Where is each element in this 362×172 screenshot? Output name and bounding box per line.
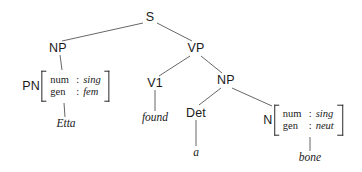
node-np-object: NP: [217, 74, 235, 87]
node-v1: V1: [147, 77, 163, 90]
feature-matrix-pn-brackets: num : sing gen : fem: [41, 71, 109, 102]
feature-separator: :: [306, 120, 316, 133]
edge-vp-v1: [159, 56, 190, 76]
feature-attribute: gen: [283, 120, 306, 133]
edge-s-vp: [157, 23, 192, 41]
terminal-etta: Etta: [56, 118, 75, 130]
syntax-tree-diagram: S NP VP V1 NP Det PN num : sing gen : fe…: [0, 0, 362, 172]
terminal-bone: bone: [299, 152, 321, 164]
feature-separator: :: [73, 73, 83, 86]
feature-matrix-pn: PN num : sing gen : fem: [22, 71, 109, 102]
node-np-subject: NP: [49, 42, 67, 55]
terminal-a: a: [193, 147, 199, 159]
node-det: Det: [186, 107, 206, 120]
edge-pn-etta: [64, 103, 65, 117]
node-vp: VP: [187, 42, 204, 55]
edge-np-pn: [60, 55, 62, 70]
feature-row-gen: gen : neut: [283, 120, 334, 133]
feature-row-gen: gen : fem: [50, 86, 100, 99]
feature-attribute: gen: [50, 86, 73, 99]
feature-value: neut: [316, 120, 334, 133]
feature-matrix-pn-category: PN: [22, 80, 39, 93]
feature-matrix-n: N num : sing gen : neut: [263, 105, 343, 136]
edge-s-np: [62, 23, 143, 41]
feature-separator: :: [73, 86, 83, 99]
feature-matrix-n-brackets: num : sing gen : neut: [274, 105, 343, 136]
terminal-found: found: [142, 112, 168, 124]
feature-attribute: num: [50, 73, 73, 86]
edge-vp-np: [201, 56, 222, 73]
feature-value: fem: [83, 86, 98, 99]
feature-separator: :: [306, 107, 316, 120]
edge-np-det: [199, 88, 221, 105]
feature-row-num: num : sing: [50, 73, 100, 86]
node-s: S: [146, 11, 155, 24]
feature-value: sing: [83, 73, 101, 86]
feature-attribute: num: [283, 107, 306, 120]
feature-matrix-n-category: N: [263, 114, 272, 127]
edge-np-n: [232, 88, 272, 106]
feature-row-num: num : sing: [283, 107, 334, 120]
feature-value: sing: [316, 107, 334, 120]
